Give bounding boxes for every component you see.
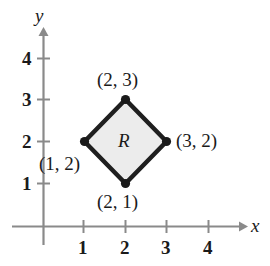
x-axis [12,220,248,233]
y-axis-tick-label-2: 2 [22,132,32,151]
x-axis-tick-label-4: 4 [203,238,213,257]
vertex-dot-top [121,95,130,104]
vertex-dot-right [162,137,171,146]
y-axis [37,27,50,245]
vertex-dot-bottom [121,179,130,188]
y-axis-name-label: y [35,6,43,25]
vertex-dot-left [80,137,89,146]
y-axis-arrowhead [39,27,49,36]
vertex-label-bottom: (2, 1) [97,192,138,211]
x-axis-tick-label-2: 2 [120,238,130,257]
x-axis-name-label: x [251,216,259,235]
y-axis-tick-label-1: 1 [22,174,32,193]
plot-canvas [0,0,270,266]
vertex-label-left: (1, 2) [39,154,80,173]
vertex-label-top: (2, 3) [97,70,138,89]
region-label-R: R [118,131,130,150]
coordinate-plane-figure: 4 3 2 1 1 2 3 4 x y (2, 3) (3, 2) (2, 1)… [0,0,270,266]
y-axis-tick-label-3: 3 [22,90,32,109]
vertex-label-right: (3, 2) [176,131,217,150]
y-axis-tick-label-4: 4 [22,49,32,68]
x-axis-tick-label-3: 3 [161,238,171,257]
x-axis-arrowhead [239,222,248,232]
x-axis-tick-label-1: 1 [78,238,88,257]
